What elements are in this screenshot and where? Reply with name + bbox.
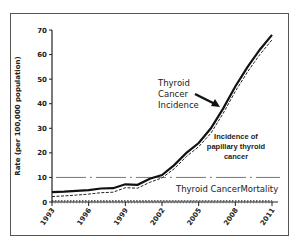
annotation-thyroid-cancer-incidence: Cancer	[158, 89, 188, 99]
x-tick-label: 1993	[39, 206, 57, 227]
annotation-thyroid-cancer-mortality: Thyroid CancerMortality	[175, 184, 278, 194]
annotation-papillary-incidence: papillary thyroid	[207, 142, 266, 151]
x-tick-label: 2005	[186, 206, 204, 227]
y-tick-label: 30	[37, 125, 47, 133]
thyroid-cancer-incidence-line	[52, 35, 272, 192]
x-tick-label: 2011	[259, 206, 277, 227]
y-tick-label: 60	[37, 51, 47, 59]
x-tick-label: 2002	[149, 206, 167, 227]
y-tick-label: 20	[37, 149, 47, 157]
y-tick-label: 40	[37, 100, 47, 108]
annotation-papillary-incidence: cancer	[224, 152, 248, 161]
x-tick-label: 2008	[222, 206, 240, 227]
y-tick-label: 70	[37, 27, 47, 35]
annotation-papillary-incidence: Incidence of	[214, 132, 258, 141]
y-axis-label: Rate (per 100,000 population)	[14, 56, 22, 176]
y-tick-label: 50	[37, 76, 47, 84]
y-tick-label: 0	[42, 199, 47, 207]
x-tick-label: 1999	[112, 206, 130, 227]
line-chart: 010203040506070Rate (per 100,000 populat…	[0, 0, 299, 250]
incidence-of-papillary-thyroid-cancer-line	[52, 40, 272, 197]
annotation-thyroid-cancer-incidence: Incidence	[158, 100, 199, 110]
y-tick-label: 10	[37, 174, 47, 182]
annotation-thyroid-cancer-incidence: Thyroid	[157, 78, 190, 88]
x-tick-label: 1996	[76, 206, 94, 227]
